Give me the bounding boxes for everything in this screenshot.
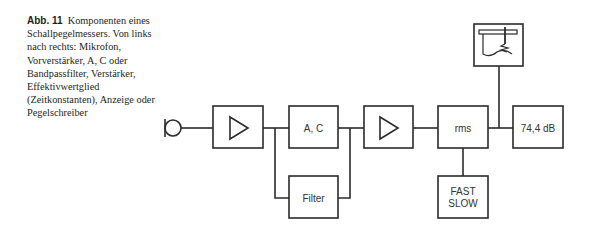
wire-filter-amp: [338, 128, 350, 198]
weighting-label: A, C: [304, 123, 323, 134]
display-label: 74,4 dB: [521, 123, 556, 134]
time-constant-block: [438, 176, 488, 218]
rms-label: rms: [455, 123, 472, 134]
amplifier-triangle-icon: [230, 117, 248, 139]
microphone-icon: [165, 119, 181, 137]
fast-label: FAST: [450, 186, 475, 197]
amplifier-triangle-icon: [380, 117, 398, 139]
amplifier-block: [364, 106, 413, 148]
wire-preamp-filter: [275, 128, 289, 198]
preamplifier-block: [213, 106, 263, 148]
block-diagram: A, C Filter rms FAST SLOW 74,4 dB: [0, 0, 590, 226]
slow-label: SLOW: [448, 198, 478, 209]
level-recorder-icon: [479, 27, 517, 56]
filter-label: Filter: [302, 193, 325, 204]
